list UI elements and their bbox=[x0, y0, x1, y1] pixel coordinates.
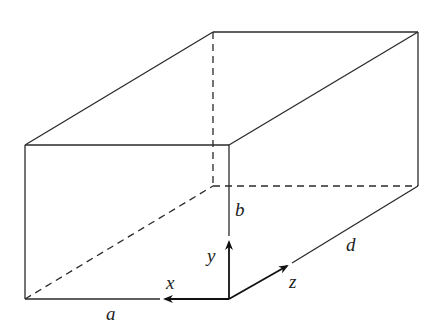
z-axis-label: z bbox=[288, 271, 297, 292]
z-axis-arrow bbox=[229, 266, 287, 299]
height-label-b: b bbox=[235, 199, 245, 220]
x-axis-label: x bbox=[165, 272, 175, 293]
top-left-slant-edge bbox=[25, 32, 213, 145]
coordinate-axes bbox=[165, 242, 287, 299]
depth-label-d: d bbox=[346, 234, 356, 255]
bottom-left-slant-hidden-edge bbox=[25, 186, 213, 299]
visible-edges bbox=[25, 32, 418, 299]
width-label-a: a bbox=[106, 303, 116, 324]
y-axis-label: y bbox=[205, 245, 216, 266]
labels: a b d x y z bbox=[106, 199, 356, 324]
box-diagram: a b d x y z bbox=[0, 0, 442, 329]
top-right-slant-edge bbox=[229, 32, 418, 145]
hidden-edges bbox=[25, 32, 418, 299]
